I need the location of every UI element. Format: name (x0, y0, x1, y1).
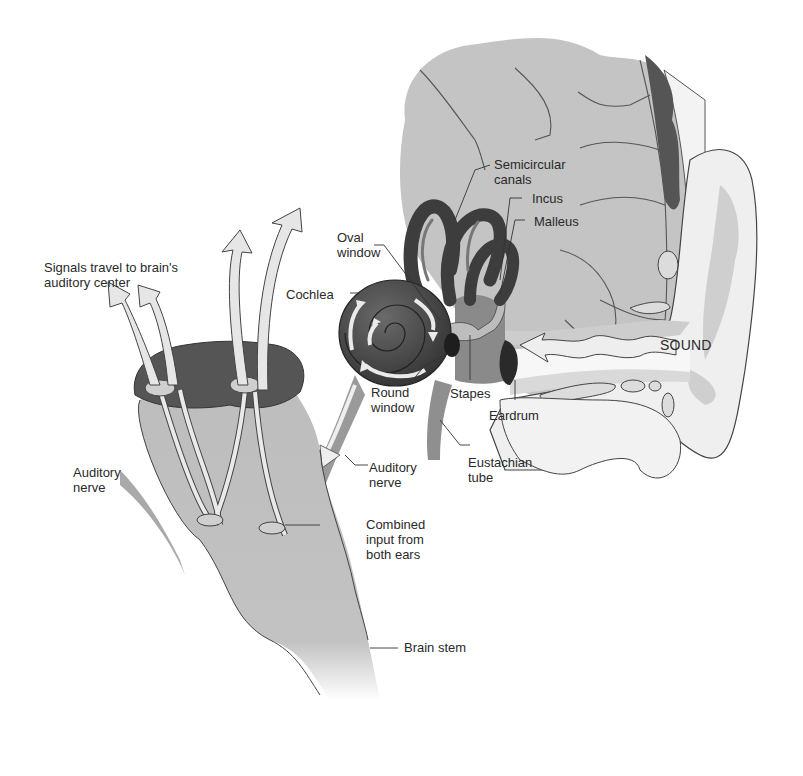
label-sound: SOUND (660, 338, 712, 353)
label-round-window: Round window (371, 385, 414, 415)
label-stapes: Stapes (450, 386, 490, 401)
cochlea (339, 280, 460, 386)
eustachian-tube (427, 380, 452, 460)
label-incus: Incus (532, 191, 563, 206)
label-auditory-nerve-right: Auditory nerve (369, 460, 417, 490)
label-cochlea: Cochlea (286, 287, 334, 302)
label-oval-window: Oval window (337, 230, 380, 260)
junction-right (259, 522, 285, 534)
label-eustachian-tube: Eustachian tube (468, 455, 532, 485)
label-semicircular-canals: Semicircular canals (494, 157, 566, 187)
label-signals-to-auditory-center: Signals travel to brain's auditory cente… (44, 260, 178, 290)
junction-left (197, 514, 223, 526)
label-malleus: Malleus (534, 214, 579, 229)
label-combined-input: Combined input from both ears (366, 517, 425, 562)
label-brain-stem: Brain stem (404, 640, 466, 655)
round-window (444, 333, 460, 357)
label-eardrum: Eardrum (489, 408, 539, 423)
label-auditory-nerve-left: Auditory nerve (73, 465, 121, 495)
